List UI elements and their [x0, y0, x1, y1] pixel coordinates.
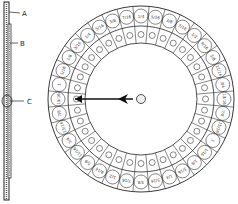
- dial: 1/45/163/87/161/29/165/811/163/413/167/8…: [48, 6, 234, 192]
- scale-label: 13/16: [222, 93, 227, 105]
- diagram-canvas: ABC 1/45/163/87/161/29/165/811/163/413/1…: [0, 0, 238, 204]
- scale-label: 15/16: [56, 93, 61, 105]
- scale-label: 3/8: [137, 180, 144, 185]
- label-b: B: [20, 40, 25, 48]
- label-c: C: [27, 98, 32, 106]
- part-labels: ABC: [9, 10, 32, 106]
- leader-line-a: [9, 12, 20, 13]
- scale-label: 1/4: [138, 14, 145, 19]
- center-knob: [137, 95, 146, 104]
- label-a: A: [22, 10, 27, 18]
